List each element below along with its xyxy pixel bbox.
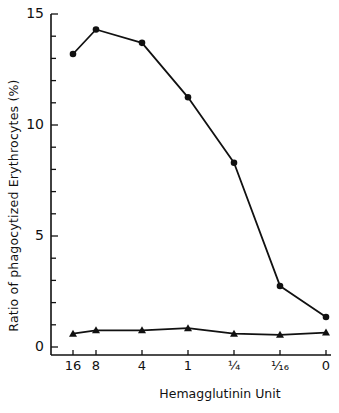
circle-marker xyxy=(185,94,192,101)
series-line-triangles xyxy=(73,328,326,335)
series-line-circles xyxy=(73,30,326,318)
x-tick-label-quarter: ¼ xyxy=(219,358,249,373)
x-tick-label-8: 8 xyxy=(81,358,111,373)
y-axis-label: Ratio of phagocytized Erythrocytes (%) xyxy=(2,80,24,330)
x-tick-label-sixteenth: ¹⁄₁₆ xyxy=(265,358,295,373)
x-tick-label-4: 4 xyxy=(127,358,157,373)
y-tick-label-10: 10 xyxy=(22,116,44,132)
circle-marker xyxy=(323,314,330,321)
circle-marker xyxy=(231,159,238,166)
circle-marker xyxy=(277,283,284,290)
y-tick-label-15: 15 xyxy=(22,5,44,21)
x-tick-label-1: 1 xyxy=(173,358,203,373)
y-axis-label-text: Ratio of phagocytized Erythrocytes (%) xyxy=(6,79,21,331)
y-tick-label-0: 0 xyxy=(22,338,44,354)
circle-marker xyxy=(139,40,146,47)
plot-area xyxy=(0,0,339,413)
line-chart: Ratio of phagocytized Erythrocytes (%) H… xyxy=(0,0,339,413)
x-tick-label-0: 0 xyxy=(311,358,339,373)
circle-marker xyxy=(70,51,77,58)
y-tick-label-5: 5 xyxy=(22,227,44,243)
circle-marker xyxy=(93,26,100,33)
x-axis-label: Hemagglutinin Unit xyxy=(120,386,320,401)
